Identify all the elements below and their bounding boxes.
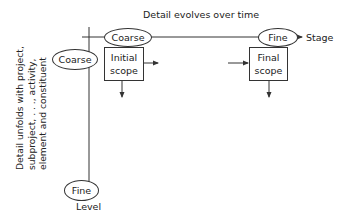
final-scope-line1: Final bbox=[258, 51, 280, 64]
stage-fine-label: Fine bbox=[268, 32, 287, 43]
diagram-canvas: Detail evolves over time Coarse Fine Sta… bbox=[0, 0, 346, 217]
level-description-line3: element and constituent bbox=[37, 46, 49, 170]
level-fine-node: Fine bbox=[64, 180, 99, 201]
stage-coarse-label: Coarse bbox=[112, 32, 145, 43]
level-axis-description: Detail unfolds with project, subproject,… bbox=[14, 46, 49, 170]
final-scope-line2: scope bbox=[255, 64, 283, 77]
level-description-line2: subproject, . . ., activity, bbox=[26, 46, 38, 170]
initial-scope-line2: scope bbox=[110, 64, 138, 77]
stage-fine-node: Fine bbox=[258, 28, 298, 47]
level-coarse-label: Coarse bbox=[59, 54, 92, 65]
initial-scope-box: Initial scope bbox=[104, 47, 144, 81]
level-coarse-node: Coarse bbox=[52, 49, 98, 70]
initial-scope-line1: Initial bbox=[111, 51, 137, 64]
level-description-line1: Detail unfolds with project, bbox=[14, 46, 26, 170]
diagram-title: Detail evolves over time bbox=[143, 9, 259, 20]
stage-coarse-node: Coarse bbox=[104, 28, 152, 47]
level-axis-label: Level bbox=[76, 201, 101, 212]
level-fine-label: Fine bbox=[72, 185, 91, 196]
stage-axis-label: Stage bbox=[306, 32, 333, 43]
final-scope-box: Final scope bbox=[249, 47, 288, 81]
